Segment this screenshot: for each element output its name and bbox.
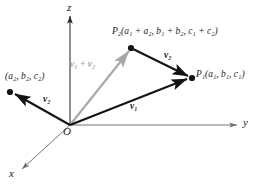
point-p2-label: P₂(a₁ + a₂, b₁ + b₂, c₁ + c₂): [112, 27, 218, 37]
y-axis-label: y: [243, 117, 248, 128]
v2-upper-vector-line: [133, 49, 188, 76]
p1-dot: [189, 75, 195, 81]
point-p1-label: P₁(a₁, b₁, c₁): [196, 70, 245, 80]
a2b2c2-dot: [7, 89, 13, 95]
x-axis-label: x: [9, 168, 14, 179]
vector-addition-figure: z y x O P₂(a₁ + a₂, b₁ + b₂, c₁ + c₂) P₁…: [0, 0, 255, 188]
p2-dot: [128, 45, 134, 51]
resultant-vector-label: v₁ + v₂: [70, 60, 95, 70]
point-a2b2c2-label: (a₂, b₂, c₂): [5, 72, 44, 82]
origin-label: O: [63, 126, 71, 137]
v2-left-vector-label: v₂: [43, 95, 51, 105]
v2-upper-vector-label: v₂: [164, 51, 172, 61]
v1-vector-label: v₁: [130, 102, 138, 112]
z-axis-label: z: [67, 2, 71, 13]
